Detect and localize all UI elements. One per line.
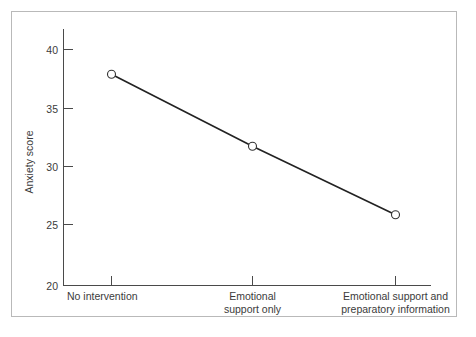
y-tick-label-40: 40 xyxy=(46,44,58,56)
data-point-marker-3[interactable] xyxy=(392,211,400,219)
y-tick-label-35: 35 xyxy=(46,103,58,115)
figure-frame: 40 35 30 25 20 Anxiety score No interven… xyxy=(11,11,457,317)
x-category-label-3-line1: Emotional support and xyxy=(343,290,448,302)
x-category-label-2-line1: Emotional xyxy=(229,290,276,302)
y-tick-label-30: 30 xyxy=(46,161,58,173)
x-category-label-1: No intervention xyxy=(67,290,138,302)
y-tick-label-25: 25 xyxy=(46,219,58,231)
y-axis-title: Anxiety score xyxy=(23,130,35,193)
x-category-label-2-line2: support only xyxy=(224,303,282,315)
y-tick-label-20: 20 xyxy=(46,280,58,292)
data-point-marker-1[interactable] xyxy=(108,70,116,78)
data-point-marker-2[interactable] xyxy=(249,142,257,150)
x-category-label-3-line2: preparatory information xyxy=(341,303,450,315)
line-chart: 40 35 30 25 20 Anxiety score No interven… xyxy=(12,12,456,316)
